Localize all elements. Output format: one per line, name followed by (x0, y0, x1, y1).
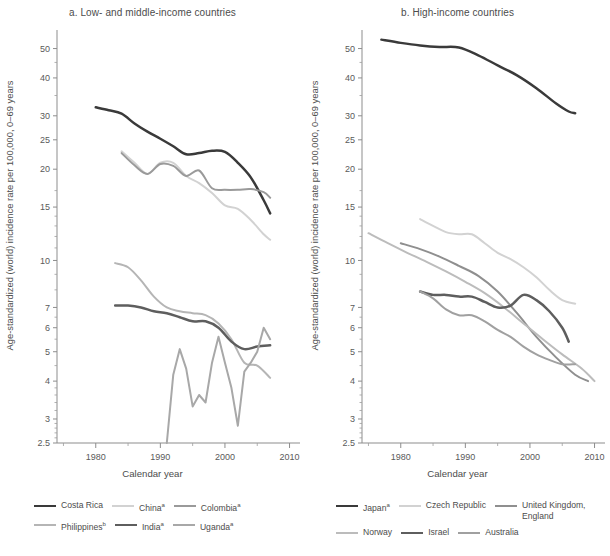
svg-text:5: 5 (350, 347, 355, 357)
svg-text:2000: 2000 (520, 452, 540, 462)
legend-item-united-kingdom-england[interactable]: United Kingdom, England (495, 500, 586, 522)
legend-label: Indiaa (142, 519, 164, 533)
svg-text:30: 30 (345, 111, 355, 121)
panel-b-x-axis-label: Calendar year (305, 468, 610, 479)
svg-text:3: 3 (45, 414, 50, 424)
legend-swatch-icon (399, 505, 421, 507)
legend-item-uganda[interactable]: Ugandaa (173, 519, 233, 533)
svg-text:25: 25 (345, 135, 355, 145)
legend-swatch-icon (173, 524, 195, 526)
panel-high-income: b. High-income countries Age-standardize… (305, 0, 610, 496)
legend-footnote-marker: a (162, 502, 165, 508)
panel-b-plot: 2.534567101520253040501980199020002010 (305, 0, 610, 496)
legend-swatch-icon (174, 505, 196, 507)
svg-text:7: 7 (45, 303, 50, 313)
svg-text:5: 5 (45, 347, 50, 357)
svg-text:3: 3 (350, 414, 355, 424)
legend-footnote-marker: b (103, 521, 106, 527)
legend-row: PhilippinesbIndiaaUgandaa (34, 519, 310, 533)
series-line-japan (381, 40, 575, 114)
legend-swatch-icon (401, 532, 423, 534)
series-line-china (122, 151, 271, 239)
legend-swatch-icon (34, 505, 56, 507)
svg-text:40: 40 (345, 73, 355, 83)
series-line-uganda (167, 328, 270, 443)
svg-text:10: 10 (40, 256, 50, 266)
legend-label: Japana (363, 500, 390, 514)
svg-text:15: 15 (345, 202, 355, 212)
series-line-norway (368, 233, 594, 381)
legend-label: Colombiaa (201, 500, 241, 514)
svg-text:10: 10 (345, 256, 355, 266)
legend-label: Norway (363, 527, 392, 538)
legend-row: Costa RicaChinaaColombiaa (34, 500, 310, 514)
legend-footnote-marker: a (161, 521, 164, 527)
legend-panel-a: Costa RicaChinaaColombiaaPhilippinesbInd… (34, 500, 310, 538)
panel-a-plot: 2.534567101520253040501980199020002010 (0, 0, 305, 496)
legend-swatch-icon (112, 505, 134, 507)
svg-text:50: 50 (40, 44, 50, 54)
legend-label: Chinaa (139, 500, 165, 514)
svg-text:2.5: 2.5 (37, 438, 50, 448)
svg-text:2010: 2010 (585, 452, 605, 462)
legend-item-czech-republic[interactable]: Czech Republic (399, 500, 486, 511)
legend-label: Philippinesb (61, 519, 106, 533)
svg-text:20: 20 (40, 164, 50, 174)
legend-swatch-icon (34, 524, 56, 526)
svg-text:1990: 1990 (150, 452, 170, 462)
legend-item-india[interactable]: Indiaa (115, 519, 164, 533)
legend-item-china[interactable]: Chinaa (112, 500, 165, 514)
svg-text:2010: 2010 (280, 452, 300, 462)
legend-item-australia[interactable]: Australia (458, 527, 518, 538)
legend-swatch-icon (336, 505, 358, 507)
legend-footnote-marker: a (386, 502, 389, 508)
legend-swatch-icon (458, 532, 480, 534)
panel-low-middle-income: a. Low- and middle-income countries Age-… (0, 0, 305, 496)
series-line-india (115, 305, 270, 349)
svg-text:2.5: 2.5 (342, 438, 355, 448)
legend-item-colombia[interactable]: Colombiaa (174, 500, 241, 514)
legend-label: Ugandaa (200, 519, 233, 533)
svg-text:1990: 1990 (455, 452, 475, 462)
svg-text:25: 25 (40, 135, 50, 145)
svg-text:50: 50 (345, 44, 355, 54)
legend-item-japan[interactable]: Japana (336, 500, 390, 514)
legend-label: Czech Republic (426, 500, 486, 511)
panel-a-x-axis-label: Calendar year (0, 468, 305, 479)
legend-swatch-icon (336, 532, 358, 534)
legend-swatch-icon (495, 505, 517, 507)
svg-text:1980: 1980 (391, 452, 411, 462)
svg-text:6: 6 (350, 323, 355, 333)
legend-footnote-marker: a (230, 521, 233, 527)
legend-label: United Kingdom, England (522, 500, 586, 522)
svg-text:7: 7 (350, 303, 355, 313)
legend-item-israel[interactable]: Israel (401, 527, 449, 538)
svg-text:6: 6 (45, 323, 50, 333)
series-line-costa-rica (96, 107, 270, 213)
svg-text:4: 4 (45, 376, 50, 386)
svg-text:40: 40 (40, 73, 50, 83)
svg-text:30: 30 (40, 111, 50, 121)
legend-row: JapanaCzech RepublicUnited Kingdom, Engl… (336, 500, 608, 522)
legend-label: Israel (428, 527, 449, 538)
svg-text:2000: 2000 (215, 452, 235, 462)
legend-footnote-marker: a (237, 502, 240, 508)
legend-item-costa-rica[interactable]: Costa Rica (34, 500, 103, 511)
legend-panel-b: JapanaCzech RepublicUnited Kingdom, Engl… (336, 500, 608, 543)
svg-text:15: 15 (40, 202, 50, 212)
legend-row: NorwayIsraelAustralia (336, 527, 608, 538)
svg-text:20: 20 (345, 164, 355, 174)
legend-label: Costa Rica (61, 500, 103, 511)
legend-swatch-icon (115, 524, 137, 526)
svg-text:4: 4 (350, 376, 355, 386)
svg-text:1980: 1980 (86, 452, 106, 462)
legend-label: Australia (485, 527, 518, 538)
legend-item-philippines[interactable]: Philippinesb (34, 519, 106, 533)
legend-item-norway[interactable]: Norway (336, 527, 392, 538)
